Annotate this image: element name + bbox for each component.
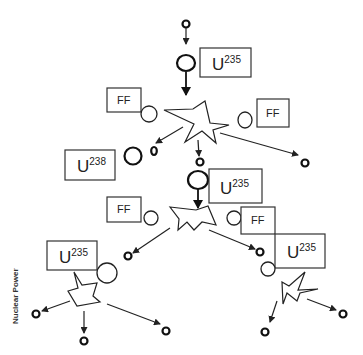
- fission-fragment-top-right: [238, 112, 252, 128]
- emitted-neutron: [33, 311, 40, 318]
- svg-text:FF: FF: [251, 214, 265, 226]
- ff-label-top-right: FF: [257, 99, 289, 127]
- u235-nucleus-lower-right: [261, 262, 275, 276]
- emitted-neutron: [197, 159, 204, 166]
- fission-fragment-top-left: [141, 106, 157, 122]
- emitted-neutron: [302, 160, 309, 167]
- u235-label-lower-right: U235: [275, 234, 325, 268]
- fission-fragment-mid-right: [227, 211, 241, 225]
- u238-label: U238: [65, 150, 115, 180]
- ff-label-mid-left: FF: [107, 197, 141, 222]
- fission-fragment-mid-left: [144, 211, 158, 225]
- side-caption: Nuclear Power: [11, 268, 20, 324]
- svg-text:FF: FF: [117, 94, 131, 106]
- fission-burst-icon: [68, 272, 100, 306]
- fission-burst-icon: [282, 272, 318, 304]
- neutron-arrow: [133, 228, 170, 253]
- emitted-neutron: [257, 249, 264, 256]
- u235-nucleus-lower-left: [97, 263, 117, 283]
- emitted-neutron: [163, 328, 170, 335]
- emitted-neutron: [340, 311, 347, 318]
- u238-nucleus: [125, 148, 142, 165]
- neutron-arrow: [198, 140, 199, 156]
- emitted-neutron: [151, 147, 157, 155]
- neutron-arrow: [42, 301, 70, 311]
- neutron-arrow: [307, 299, 336, 310]
- u235-label-lower-left: U235: [47, 241, 97, 270]
- neutron-arrow: [156, 127, 183, 143]
- emitted-neutron: [81, 338, 88, 345]
- u235-label-middle: U235: [209, 169, 262, 203]
- fission-chain-diagram: U235 FF FF U238 U235 FF FF: [0, 0, 363, 355]
- svg-text:FF: FF: [266, 107, 280, 119]
- incoming-neutron: [183, 21, 190, 28]
- ff-label-mid-right: FF: [241, 207, 275, 234]
- emitted-neutron: [262, 329, 269, 336]
- emitted-neutron: [125, 253, 132, 260]
- ff-label-top-left: FF: [107, 88, 141, 112]
- svg-text:FF: FF: [117, 203, 131, 215]
- neutron-arrow: [220, 133, 298, 155]
- fission-burst-icon: [170, 206, 216, 230]
- u235-label-top: U235: [200, 48, 251, 77]
- fission-burst-icon: [164, 101, 229, 143]
- neutron-arrow: [107, 304, 160, 324]
- neutron-arrow: [270, 301, 277, 322]
- u235-nucleus-middle: [188, 171, 208, 189]
- u235-nucleus-top: [177, 55, 195, 71]
